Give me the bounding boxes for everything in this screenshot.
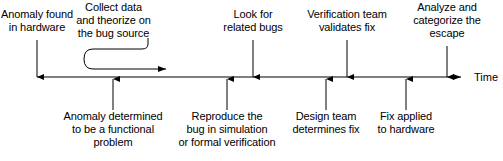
timeline-diagram: Anomaly found in hardware Collect data a…: [0, 0, 503, 161]
label-verification-validates: Verification team validates fix: [296, 8, 398, 34]
label-anomaly-found: Anomaly found in hardware: [0, 8, 74, 34]
time-axis-label: Time: [474, 71, 498, 84]
label-look-related-bugs: Look for related bugs: [211, 8, 295, 34]
label-collect-data: Collect data and theorize on the bug sou…: [73, 1, 154, 40]
label-analyze-escape: Analyze and categorize the escape: [400, 1, 494, 40]
label-fix-applied: Fix applied to hardware: [368, 110, 444, 136]
label-anomaly-functional: Anomaly determined to be a functional pr…: [52, 110, 174, 149]
label-design-determines-fix: Design team determines fix: [286, 110, 366, 136]
collect-data-loop-arrow: [84, 38, 166, 69]
label-reproduce-bug: Reproduce the bug in simulation or forma…: [168, 110, 286, 149]
